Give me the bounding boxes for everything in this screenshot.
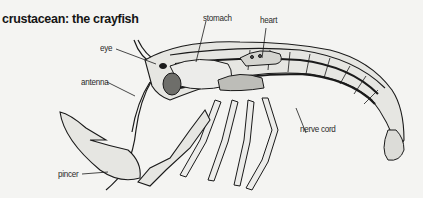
label-nerve-cord: nerve cord	[300, 123, 336, 134]
label-eye: eye	[100, 42, 112, 53]
label-pincer: pincer	[58, 168, 78, 179]
walking-legs	[180, 98, 278, 190]
label-heart: heart	[260, 14, 277, 25]
label-stomach: stomach	[203, 12, 232, 23]
label-antenna: antenna	[81, 76, 108, 87]
